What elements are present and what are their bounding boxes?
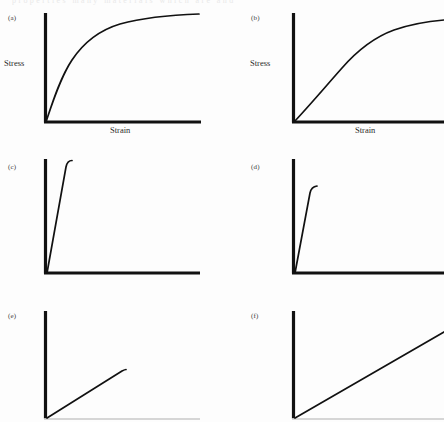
panel-d-curve xyxy=(295,186,317,273)
panel-a: (a) Stress Strain xyxy=(0,0,222,145)
panel-b-y-axis-label: Stress xyxy=(250,58,270,68)
panel-d-label: (d) xyxy=(251,163,260,171)
panel-a-x-axis-label: Strain xyxy=(110,125,130,135)
panel-c-plot xyxy=(0,145,222,295)
panel-b-label: (b) xyxy=(251,14,260,22)
panel-d: (d) xyxy=(222,145,444,295)
panel-a-plot xyxy=(0,0,222,145)
panel-f: (f) xyxy=(222,295,444,422)
panel-a-curve xyxy=(46,14,199,122)
panel-c-label: (c) xyxy=(8,163,16,171)
stress-strain-figure: properties many materials which are and … xyxy=(0,0,444,422)
panel-c: (c) xyxy=(0,145,222,295)
panel-b-curve xyxy=(294,20,444,122)
panel-b-x-axis-label: Strain xyxy=(355,125,375,135)
panel-f-label: (f) xyxy=(251,312,259,320)
panel-a-y-axis-label: Stress xyxy=(4,58,24,68)
panel-e-label: (e) xyxy=(8,312,16,320)
panel-e-plot xyxy=(0,295,222,422)
panel-c-curve xyxy=(47,161,72,274)
panel-a-label: (a) xyxy=(8,14,16,22)
panel-f-curve xyxy=(295,332,444,418)
panel-e: (e) xyxy=(0,295,222,422)
panel-b: (b) Stress Strain xyxy=(222,0,444,145)
panel-e-curve xyxy=(47,370,126,419)
